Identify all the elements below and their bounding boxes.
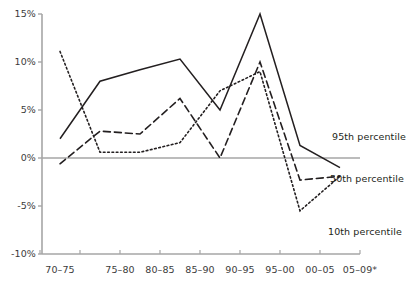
y-tick-label-0: 0% — [2, 152, 36, 163]
x-tick-label-70-75: 70–75 — [37, 264, 83, 275]
series-label-10th-percentile: 10th percentile — [328, 226, 402, 237]
series-label-95th-percentile: 95th percentile — [332, 131, 406, 142]
series-line-95th-percentile — [60, 14, 340, 168]
series-line-10th-percentile — [60, 51, 340, 210]
y-tick-label-10: 10% — [2, 56, 36, 67]
series-label-50th-percentile: 50th percentile — [330, 173, 404, 184]
y-tick-label-neg10: -10% — [2, 248, 36, 259]
series-line-50th-percentile — [60, 62, 340, 180]
x-tick-label-05-09: 05–09* — [337, 264, 383, 275]
y-tick-label-5: 5% — [2, 104, 36, 115]
y-tick-label-15: 15% — [2, 8, 36, 19]
y-tick-label-neg5: -5% — [2, 200, 36, 211]
